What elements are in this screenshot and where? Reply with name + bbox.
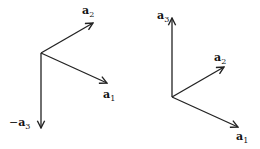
vector-label-a1: a1 — [236, 130, 248, 145]
vector-arrow-a1 — [41, 53, 107, 83]
left-frame: a2a1−a3 — [9, 4, 115, 131]
vector-label-a3: a3 — [157, 9, 169, 24]
coordinate-frames-diagram: a2a1−a3 a3a2a1 — [0, 0, 260, 149]
vector-label--a3: −a3 — [9, 116, 30, 131]
vector-label-a2: a2 — [82, 4, 94, 19]
vector-label-a1: a1 — [103, 88, 115, 103]
right-frame: a3a2a1 — [157, 9, 248, 145]
vector-arrow-a2 — [41, 23, 93, 53]
vector-arrow-a2 — [172, 67, 224, 97]
vector-arrow-a1 — [172, 97, 238, 127]
vector-label-a2: a2 — [214, 51, 226, 66]
